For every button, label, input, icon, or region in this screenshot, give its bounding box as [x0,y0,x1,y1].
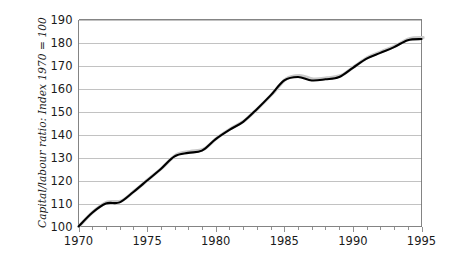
gridlines-group [79,21,422,205]
y-axis-tick-label: 140 [51,128,73,142]
series-line-shadow [80,38,423,225]
x-axis-tick-label: 1975 [132,234,161,248]
y-axis-tick-label: 130 [51,151,73,165]
x-axis-tick-label: 1985 [270,234,299,248]
chart-figure: Capital/labour ratio: Index 1970 = 100 1… [0,0,451,265]
data-series-group [79,38,424,227]
y-axis-tick-labels-group: 100110120130140150160170180190 [51,13,73,234]
y-axis-tick-label: 110 [51,197,73,211]
x-axis-tick-label: 1990 [338,234,367,248]
line-chart-plot: 100110120130140150160170180190 197019751… [0,0,451,265]
series-line-capital-labour-ratio [79,39,422,226]
x-axis-tick-marks-group [80,227,423,232]
x-axis-tick-label: 1995 [407,234,436,248]
y-axis-tick-label: 100 [51,220,73,234]
y-axis-tick-label: 160 [51,82,73,96]
y-axis-tick-label: 120 [51,174,73,188]
y-axis-tick-label: 180 [51,36,73,50]
y-axis-tick-label: 190 [51,13,73,27]
y-axis-tick-label: 150 [51,105,73,119]
x-axis-tick-label: 1980 [201,234,230,248]
y-axis-tick-label: 170 [51,59,73,73]
x-axis-tick-label: 1970 [64,234,93,248]
x-axis-tick-labels-group: 197019751980198519901995 [64,234,436,248]
